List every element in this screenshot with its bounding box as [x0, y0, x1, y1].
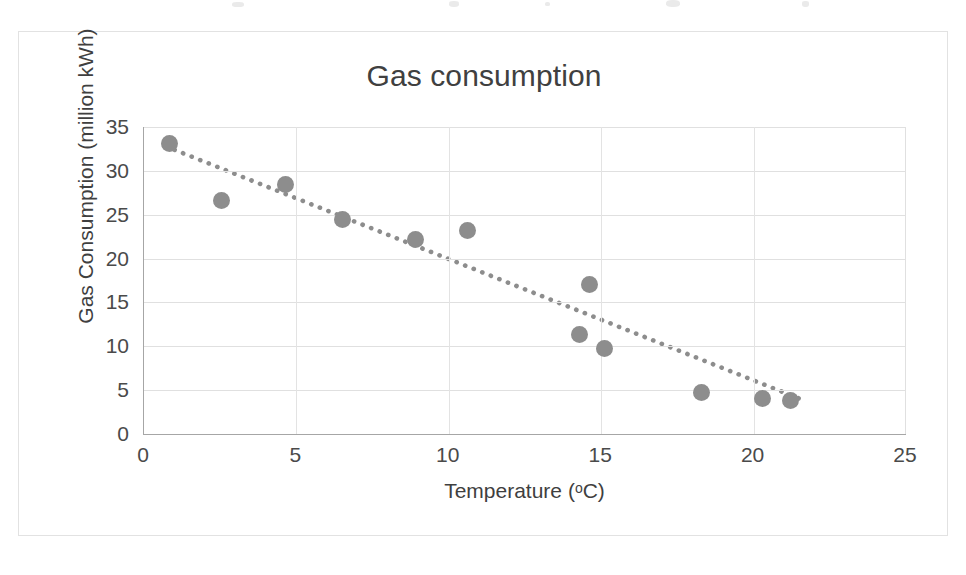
x-tick-label: 15 — [570, 443, 630, 467]
scan-smudge — [545, 2, 550, 6]
scan-artifact-strip — [0, 0, 966, 14]
y-tick-label: 30 — [85, 159, 129, 183]
gridline-horizontal — [144, 346, 906, 347]
x-axis-title: Temperature (oC) — [143, 479, 906, 503]
y-axis-tick-labels: 05101520253035 — [85, 127, 129, 435]
scan-smudge — [666, 0, 680, 7]
data-point-marker[interactable] — [754, 390, 771, 407]
data-point-marker[interactable] — [213, 192, 230, 209]
y-tick-label: 5 — [85, 378, 129, 402]
x-axis-tick-labels: 0510152025 — [143, 443, 906, 473]
scan-smudge — [449, 1, 459, 7]
degree-symbol-icon: o — [575, 480, 583, 496]
gridline-vertical — [449, 127, 450, 434]
gridline-horizontal — [144, 390, 906, 391]
chart-card: Gas consumption Gas Consumption (million… — [18, 31, 948, 536]
gridline-horizontal — [144, 302, 906, 303]
data-point-marker[interactable] — [334, 211, 351, 228]
data-point-marker[interactable] — [596, 340, 613, 357]
data-point-marker[interactable] — [782, 392, 799, 409]
data-point-marker[interactable] — [693, 384, 710, 401]
data-point-marker[interactable] — [581, 276, 598, 293]
x-tick-label: 25 — [875, 443, 935, 467]
scan-smudge — [802, 1, 809, 7]
y-tick-label: 25 — [85, 203, 129, 227]
gridline-vertical — [601, 127, 602, 434]
y-tick-label: 10 — [85, 334, 129, 358]
y-tick-label: 20 — [85, 247, 129, 271]
data-point-marker[interactable] — [407, 231, 424, 248]
gridline-vertical — [296, 127, 297, 434]
gridline-horizontal — [144, 259, 906, 260]
x-axis-title-prefix: Temperature ( — [444, 479, 575, 502]
trendline-segment — [174, 150, 802, 400]
y-tick-label: 35 — [85, 115, 129, 139]
y-tick-label: 15 — [85, 290, 129, 314]
data-point-marker[interactable] — [571, 326, 588, 343]
x-tick-label: 5 — [265, 443, 325, 467]
chart-title: Gas consumption — [19, 59, 949, 93]
scan-smudge — [232, 2, 244, 7]
x-tick-label: 0 — [113, 443, 173, 467]
gridline-horizontal — [144, 215, 906, 216]
plot-area — [143, 127, 906, 435]
data-point-marker[interactable] — [161, 135, 178, 152]
gridline-horizontal — [144, 171, 906, 172]
gridline-horizontal — [144, 127, 906, 128]
gridline-vertical — [754, 127, 755, 434]
x-tick-label: 20 — [723, 443, 783, 467]
x-axis-title-suffix: C) — [583, 479, 605, 502]
data-point-marker[interactable] — [277, 176, 294, 193]
trendline — [144, 127, 906, 434]
x-tick-label: 10 — [418, 443, 478, 467]
plot-right-border — [905, 127, 906, 434]
data-point-marker[interactable] — [459, 222, 476, 239]
